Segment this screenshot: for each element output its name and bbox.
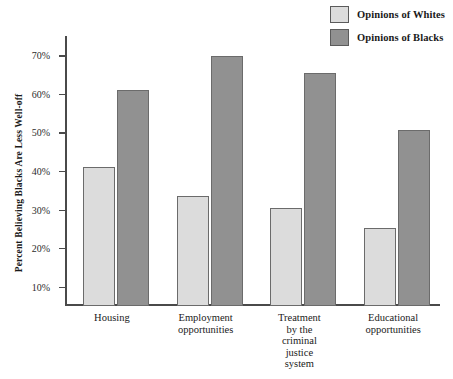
x-axis-category-label: Educational opportunities xyxy=(365,312,420,335)
x-axis-category-label: Housing xyxy=(94,312,130,324)
bar xyxy=(117,90,149,306)
bar xyxy=(304,73,336,306)
legend-item-whites: Opinions of Whites xyxy=(330,6,445,23)
bar-group: Housing xyxy=(65,36,159,306)
bar xyxy=(211,56,243,306)
x-axis-category-label: Employment opportunities xyxy=(178,312,233,335)
bar xyxy=(364,228,396,306)
y-tick-label-70: 70% xyxy=(32,50,50,61)
bar-group: Treatment by the criminal justice system xyxy=(253,36,347,306)
bar-group: Employment opportunities xyxy=(159,36,253,306)
y-tick-label-20: 20% xyxy=(32,243,50,254)
bar xyxy=(83,167,115,306)
bar xyxy=(398,130,430,306)
plot-area: 70%60%50%40%30%20%10% HousingEmployment … xyxy=(65,36,440,306)
legend-label-whites: Opinions of Whites xyxy=(357,9,445,20)
bar xyxy=(177,196,209,306)
y-tick-label-60: 60% xyxy=(32,88,50,99)
legend-swatch-whites xyxy=(330,6,349,23)
bar-chart: Opinions of Whites Opinions of Blacks Pe… xyxy=(0,0,453,379)
bar xyxy=(270,208,302,306)
bar-group: Educational opportunities xyxy=(346,36,440,306)
y-tick-label-30: 30% xyxy=(32,204,50,215)
y-tick-label-50: 50% xyxy=(32,127,50,138)
y-axis-title: Percent Believing Blacks Are Less Well-o… xyxy=(10,58,28,308)
y-tick-label-10: 10% xyxy=(32,281,50,292)
x-axis-category-label: Treatment by the criminal justice system xyxy=(278,312,321,370)
y-tick-label-40: 40% xyxy=(32,166,50,177)
